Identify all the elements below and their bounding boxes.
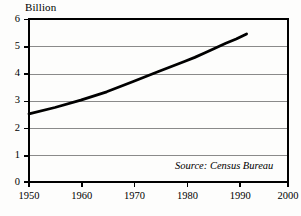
chart-canvas bbox=[0, 0, 301, 216]
x-axis-label-1950: 1950 bbox=[9, 190, 49, 201]
x-axis-label-1980: 1980 bbox=[167, 190, 207, 201]
x-axis-label-1990: 1990 bbox=[220, 190, 260, 201]
y-axis-label-5: 5 bbox=[4, 41, 20, 51]
y-axis-label-1: 1 bbox=[4, 150, 20, 160]
x-axis-label-1970: 1970 bbox=[115, 190, 155, 201]
population-line-chart: Billion 6 5 4 3 2 1 0 1950 1960 1970 198… bbox=[0, 0, 301, 216]
source-annotation: Source: Census Bureau bbox=[175, 160, 273, 172]
y-axis-label-2: 2 bbox=[4, 123, 20, 133]
y-axis-label-3: 3 bbox=[4, 95, 20, 105]
y-axis-unit-label: Billion bbox=[25, 1, 56, 14]
y-axis-label-4: 4 bbox=[4, 68, 20, 78]
y-axis-label-0: 0 bbox=[4, 177, 20, 187]
y-axis-label-6: 6 bbox=[4, 14, 20, 24]
plot-background bbox=[29, 19, 288, 182]
x-axis-label-1960: 1960 bbox=[62, 190, 102, 201]
x-axis-label-2000: 2000 bbox=[268, 190, 301, 201]
